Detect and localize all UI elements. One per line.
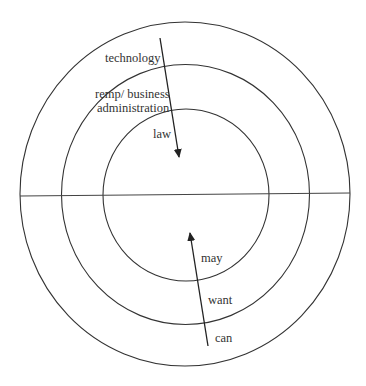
label-may: may <box>201 251 223 265</box>
label-technology: technology <box>105 51 161 65</box>
bottom-inward-arrow <box>190 233 208 346</box>
concentric-circles-diagram: technology remp/ business administration… <box>0 0 366 386</box>
horizontal-divider-line <box>20 193 350 196</box>
label-can: can <box>215 331 233 345</box>
label-want: want <box>208 293 233 307</box>
label-remp-business: remp/ business <box>95 87 170 101</box>
label-law: law <box>153 127 171 141</box>
label-administration: administration <box>97 101 170 115</box>
